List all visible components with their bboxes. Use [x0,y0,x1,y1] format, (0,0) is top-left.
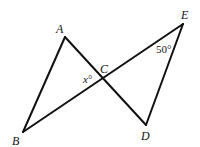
label-point-c: C [100,62,109,76]
label-point-d: D [140,129,150,143]
angle-label-x: x° [82,73,92,85]
label-point-e: E [180,8,189,22]
label-point-a: A [55,22,64,36]
geometry-diagram: A B C D E x° 50° [0,0,200,147]
angle-label-50: 50° [156,43,171,55]
segment-ad [65,37,146,125]
label-point-b: B [12,134,20,147]
segment-ed [146,24,183,125]
